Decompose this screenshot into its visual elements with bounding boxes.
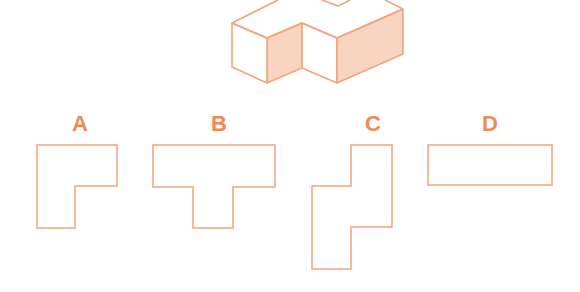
option-c-label[interactable]: C <box>353 113 393 135</box>
option-c-shape[interactable] <box>312 145 392 269</box>
shaded-face-right <box>337 9 403 83</box>
shaded-face-left <box>267 23 302 83</box>
front-face-inner <box>302 23 337 83</box>
option-b-shape[interactable] <box>153 145 275 228</box>
option-d-label[interactable]: D <box>470 113 510 135</box>
top-edge-right-back <box>385 0 403 9</box>
option-a-label[interactable]: A <box>60 113 100 135</box>
option-a-shape[interactable] <box>37 145 117 228</box>
figure-canvas <box>0 0 580 292</box>
option-b-label[interactable]: B <box>199 113 239 135</box>
isometric-solid <box>232 0 403 83</box>
option-shapes <box>37 145 552 269</box>
front-face-left <box>232 23 267 83</box>
top-edge-left <box>232 0 278 23</box>
top-notch <box>322 0 350 6</box>
option-d-shape[interactable] <box>428 145 552 185</box>
